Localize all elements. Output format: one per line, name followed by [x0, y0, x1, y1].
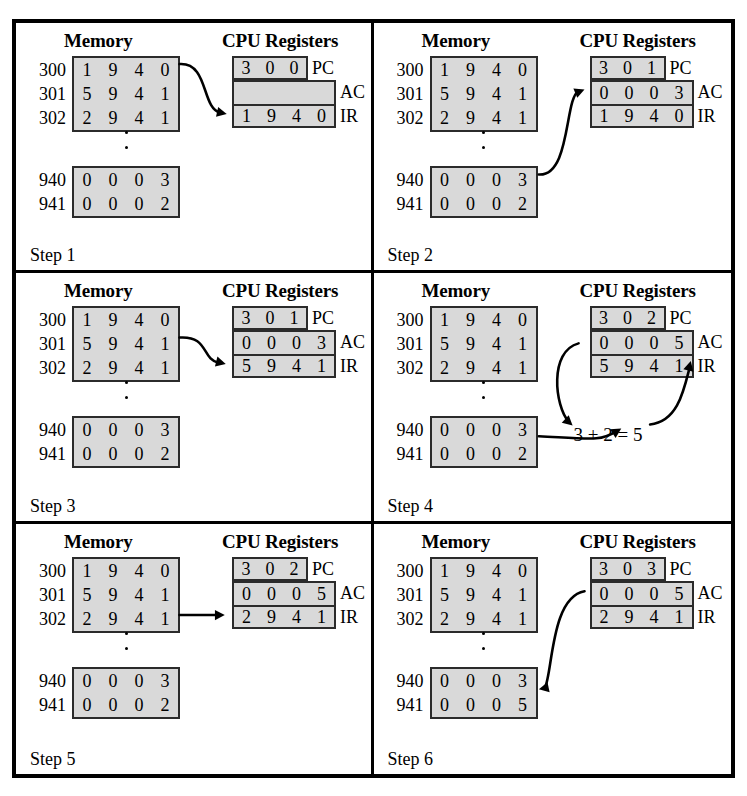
- memory-digit: 5: [74, 586, 100, 604]
- ir-digit: 4: [642, 608, 667, 626]
- memory-digit: 0: [74, 171, 100, 189]
- memory-digit: 0: [458, 421, 484, 439]
- pc-digit: 1: [282, 309, 306, 327]
- pc-label: PC: [312, 557, 334, 581]
- memory-digit: 0: [100, 171, 126, 189]
- memory-digit: 3: [152, 171, 178, 189]
- arrow-path: [538, 91, 578, 174]
- pc-box: 300: [232, 56, 308, 80]
- memory-digit: 4: [484, 335, 510, 353]
- ac-label: AC: [340, 80, 365, 104]
- vertical-ellipsis-icon: [480, 632, 488, 664]
- memory-digit: 1: [152, 610, 178, 628]
- memory-row: 0002: [74, 693, 178, 717]
- ir-digit: 1: [667, 357, 692, 375]
- memory-row: 1940: [432, 308, 536, 332]
- memory-digit: 0: [510, 311, 536, 329]
- memory-row: 0003: [432, 418, 536, 442]
- memory-digit: 0: [152, 311, 178, 329]
- ac-box: 0003: [590, 80, 694, 104]
- memory-address-label: 301: [39, 332, 66, 356]
- ir-digit: 4: [284, 357, 309, 375]
- ir-digit: 4: [642, 357, 667, 375]
- arrow-path: [179, 338, 218, 364]
- memory-row: 5941: [432, 583, 536, 607]
- memory-digit: 9: [100, 359, 126, 377]
- pc-digit: 1: [640, 59, 664, 77]
- memory-digit: 0: [100, 696, 126, 714]
- ac-digit: 0: [592, 84, 617, 102]
- pc-box: 301: [232, 306, 308, 330]
- ac-digit: 0: [617, 585, 642, 603]
- memory-digit: 0: [126, 696, 152, 714]
- arrowhead-icon: [216, 107, 228, 119]
- ac-digit: 0: [642, 334, 667, 352]
- memory-digit: 9: [458, 335, 484, 353]
- memory-address-label: 300: [397, 58, 424, 82]
- memory-bottom-block: 00039400005941: [430, 667, 538, 719]
- step-caption: Step 2: [388, 246, 434, 264]
- ac-label: AC: [340, 330, 365, 354]
- memory-digit: 2: [152, 195, 178, 213]
- memory-address-label: 300: [397, 308, 424, 332]
- memory-digit: 1: [74, 311, 100, 329]
- memory-digit: 1: [152, 85, 178, 103]
- memory-digit: 2: [74, 359, 100, 377]
- ac-box: 0005: [590, 330, 694, 354]
- memory-row: 5941: [432, 332, 536, 356]
- memory-digit: 0: [152, 562, 178, 580]
- ac-digit: 0: [592, 334, 617, 352]
- pc-digit: 3: [592, 309, 616, 327]
- memory-digit: 4: [484, 359, 510, 377]
- arrowhead-icon: [215, 610, 225, 620]
- memory-digit: 1: [74, 61, 100, 79]
- memory-digit: 0: [100, 421, 126, 439]
- memory-digit: 9: [100, 61, 126, 79]
- memory-digit: 4: [484, 85, 510, 103]
- ir-box: 2941: [590, 605, 694, 629]
- memory-digit: 9: [458, 610, 484, 628]
- ir-digit: 1: [234, 107, 259, 125]
- memory-digit: 0: [432, 421, 458, 439]
- memory-row: 5941: [432, 82, 536, 106]
- memory-digit: 2: [510, 445, 536, 463]
- memory-top-block: 194030059413012941302: [72, 306, 180, 382]
- memory-digit: 4: [126, 359, 152, 377]
- ir-digit: 4: [284, 608, 309, 626]
- panel-step-2: MemoryCPU Registers194030059413012941302…: [374, 23, 732, 273]
- memory-digit: 1: [510, 610, 536, 628]
- ac-label: AC: [340, 581, 365, 605]
- ir-digit: 4: [642, 107, 667, 125]
- memory-top-block: 194030059413012941302: [72, 557, 180, 633]
- memory-digit: 2: [74, 610, 100, 628]
- memory-digit: 4: [126, 562, 152, 580]
- memory-top-block: 194030059413012941302: [430, 56, 538, 132]
- panel-step-3: MemoryCPU Registers194030059413012941302…: [16, 273, 374, 523]
- vertical-ellipsis-icon: [122, 131, 130, 163]
- pc-digit: 3: [592, 560, 616, 578]
- pc-digit: 0: [258, 560, 282, 578]
- memory-row: 1940: [74, 308, 178, 332]
- memory-digit: 4: [126, 85, 152, 103]
- memory-digit: 9: [100, 335, 126, 353]
- memory-address-label: 940: [397, 418, 424, 442]
- memory-digit: 9: [458, 109, 484, 127]
- cpu-registers-heading: CPU Registers: [580, 280, 696, 302]
- memory-digit: 5: [432, 85, 458, 103]
- ac-digit: 3: [309, 334, 334, 352]
- memory-digit: 0: [432, 195, 458, 213]
- memory-address-label: 302: [39, 106, 66, 130]
- memory-row: 5941: [74, 82, 178, 106]
- ac-digit: 0: [234, 334, 259, 352]
- memory-address-label: 301: [39, 82, 66, 106]
- memory-digit: 4: [126, 586, 152, 604]
- memory-digit: 1: [432, 562, 458, 580]
- memory-bottom-block: 00039400002941: [430, 416, 538, 468]
- arrowhead-icon: [537, 682, 549, 694]
- ac-digit: 0: [234, 585, 259, 603]
- pc-digit: 0: [616, 560, 640, 578]
- memory-digit: 0: [458, 195, 484, 213]
- memory-digit: 0: [152, 61, 178, 79]
- ir-digit: 5: [234, 357, 259, 375]
- memory-digit: 0: [74, 195, 100, 213]
